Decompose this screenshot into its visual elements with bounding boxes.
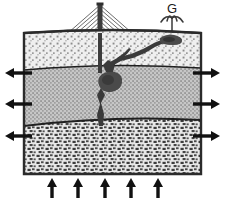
geological-cross-section-svg: G <box>0 0 225 199</box>
arrow-up-2 <box>73 178 83 198</box>
arrow-up-1 <box>47 178 57 198</box>
drill-string-subsurface <box>98 33 102 73</box>
diagram-canvas: G <box>0 0 225 199</box>
arrow-up-3 <box>100 178 110 198</box>
crown-block-icon <box>97 3 104 6</box>
arrow-up-4 <box>126 178 136 198</box>
arrow-up-5 <box>153 178 163 198</box>
uplift-arrows-bottom <box>47 178 163 198</box>
strata-group <box>24 30 201 174</box>
geyser-label: G <box>167 1 177 16</box>
lower-layer <box>24 118 201 174</box>
